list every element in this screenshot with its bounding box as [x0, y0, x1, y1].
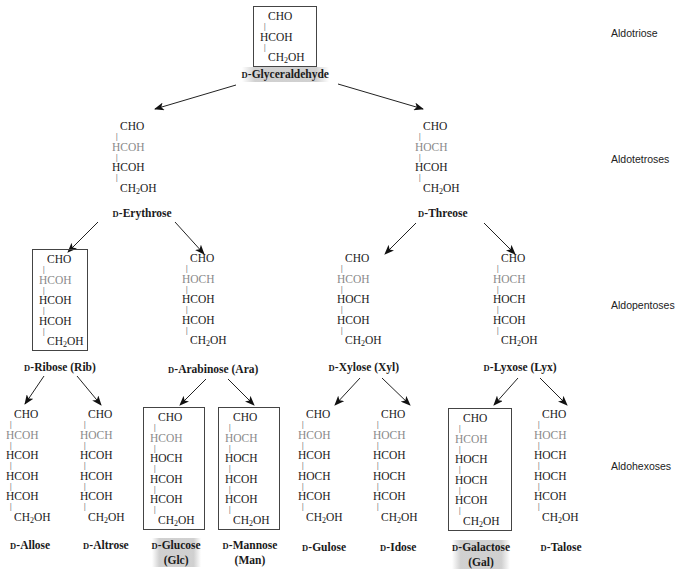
arrow-erythrose-2 [68, 222, 98, 252]
group-text: HOCH [534, 449, 567, 461]
sugar-abbreviation: (Man) [223, 553, 278, 567]
carbon-row: HCOH [112, 141, 145, 154]
bond-line: | [534, 462, 540, 470]
carbon-row: CH2OH [150, 514, 195, 527]
group-text: CHO [158, 411, 182, 423]
carbon-row: HOCH [298, 470, 331, 483]
bond-line: | [534, 421, 540, 429]
group-text: CH2OH [120, 182, 157, 194]
group-text: CHO [268, 10, 292, 22]
arrow-arabinose-9 [228, 379, 254, 405]
group-text: CHO [120, 120, 144, 132]
bond-line: | [80, 462, 86, 470]
carbon-row: HCOH [150, 473, 183, 486]
sugar-name-text: -Xylose (Xyl) [335, 361, 399, 373]
group-text: HOCH [415, 141, 448, 153]
bond-line: | [6, 421, 12, 429]
sugar-name-text: -Mannose [229, 539, 278, 551]
bond-line: | [298, 421, 304, 429]
group-text: CH2OH [233, 514, 270, 526]
group-text: HCOH [182, 293, 215, 305]
bond-line: | [534, 503, 540, 511]
carbon-row: CH2OH [415, 182, 460, 195]
bond-line: | [373, 442, 379, 450]
group-text: CHO [381, 408, 405, 420]
sugar-name-gulose: D-Gulose [302, 540, 346, 555]
sugar-name-text: -Ribose (Rib) [30, 361, 96, 373]
group-text: HCOH [112, 161, 145, 173]
group-text: HCOH [6, 449, 39, 461]
arrow-xylose-10 [335, 378, 360, 405]
sugar-name-ribose: D-Ribose (Rib) [24, 360, 96, 375]
carbon-row: CH2OH [6, 511, 51, 524]
level-label-aldotriose: Aldotriose [611, 27, 658, 39]
group-text: HCOH [373, 449, 406, 461]
carbon-row: HOCH [493, 273, 526, 286]
group-text: CHO [423, 120, 447, 132]
group-text: HOCH [182, 273, 215, 285]
group-text: CHO [501, 252, 525, 264]
group-text: CHO [463, 412, 487, 424]
carbon-row: CH2OH [493, 334, 538, 347]
group-text: HOCH [80, 429, 113, 441]
group-text: CH2OH [88, 511, 125, 523]
molecule-gulose: CHO|HCOH|HCOH|HOCH|HCOH|CH2OH [298, 408, 343, 524]
carbon-row: HCOH [225, 473, 258, 486]
group-text: CHO [190, 252, 214, 264]
group-text: HCOH [39, 294, 72, 306]
carbon-row: HOCH [182, 273, 215, 286]
molecule-erythrose: CHO|HCOH|HCOH|CH2OH [112, 120, 157, 195]
molecule-threose: CHO|HOCH|HCOH|CH2OH [415, 120, 460, 195]
bond-line: | [373, 503, 379, 511]
bond-line: | [455, 466, 461, 474]
carbon-row: CH2OH [182, 334, 227, 347]
bond-line: | [225, 506, 231, 514]
group-text: CH2OH [47, 335, 84, 347]
group-text: HOCH [373, 470, 406, 482]
group-text: HCOH [39, 274, 72, 286]
group-text: HCOH [150, 473, 183, 485]
bond-line: | [39, 307, 45, 315]
group-text: CHO [88, 408, 112, 420]
sugar-abbreviation: (Glc) [152, 553, 201, 567]
sugar-name-allose: D-Allose [10, 538, 50, 553]
group-text: HOCH [337, 293, 370, 305]
group-text: HCOH [534, 490, 567, 502]
bond-line: | [298, 483, 304, 491]
sugar-name-text: -Arabinose (Ara) [174, 363, 258, 375]
carbon-row: HCOH [39, 315, 72, 328]
bond-line: | [80, 421, 86, 429]
sugar-name-xylose: D-Xylose (Xyl) [329, 360, 400, 375]
group-text: CHO [542, 408, 566, 420]
bond-line: | [150, 486, 156, 494]
group-text: CH2OH [345, 334, 382, 346]
group-text: HCOH [455, 494, 488, 506]
sugar-name-glucose: D-Glucose(Glc) [152, 538, 201, 567]
sugar-name-text: -Glucose [158, 539, 201, 551]
bond-line: | [80, 442, 86, 450]
group-text: HOCH [493, 293, 526, 305]
bond-line: | [373, 462, 379, 470]
sugar-name-erythrose: D-Erythrose [113, 206, 172, 221]
group-text: CHO [14, 408, 38, 420]
carbon-row: HOCH [373, 470, 406, 483]
group-text: HOCH [373, 429, 406, 441]
arrow-threose-4 [385, 223, 416, 254]
group-text: CH2OH [268, 51, 305, 63]
level-label-aldohexoses: Aldohexoses [611, 460, 671, 472]
bond-line: | [6, 483, 12, 491]
sugar-name-text: -Threose [424, 207, 467, 219]
group-text: HOCH [534, 470, 567, 482]
group-text: CH2OH [463, 515, 500, 527]
molecule-talose: CHO|HOCH|HOCH|HOCH|HCOH|CH2OH [534, 408, 579, 524]
bond-line: | [112, 174, 118, 182]
bond-line: | [493, 265, 499, 273]
molecule-xylose: CHO|HCOH|HOCH|HCOH|CH2OH [337, 252, 382, 347]
sugar-name-text: -Galactose [458, 541, 510, 553]
group-text: HOCH [455, 474, 488, 486]
group-text: HOCH [225, 452, 258, 464]
group-text: HCOH [493, 314, 526, 326]
carbon-row: HOCH [455, 474, 488, 487]
carbon-row: CH2OH [455, 515, 500, 528]
group-text: HCOH [298, 490, 331, 502]
